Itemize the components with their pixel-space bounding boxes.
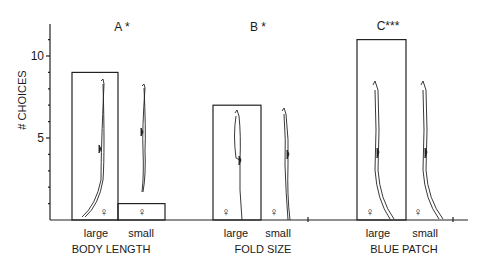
panel-c-header: C*** <box>377 19 400 33</box>
group-label-blue-patch: BLUE PATCH <box>370 243 437 255</box>
fish-icon <box>373 81 394 219</box>
choice-bar-chart: 10 5 # CHOICES A * ♀ ♀ large small BODY … <box>0 0 486 269</box>
y-axis-label: # CHOICES <box>16 70 28 129</box>
female-symbol: ♀ <box>414 205 423 219</box>
female-symbol: ♀ <box>270 205 279 219</box>
bar-fold-size-large <box>213 105 261 220</box>
panel-b-header: B * <box>250 20 266 34</box>
y-tick-5: 5 <box>37 131 44 145</box>
category-small: small <box>128 227 154 239</box>
fish-icon <box>282 108 290 220</box>
y-axis <box>46 24 50 220</box>
female-symbol: ♀ <box>222 205 231 219</box>
category-small: small <box>265 227 291 239</box>
group-label-body-length: BODY LENGTH <box>72 243 151 255</box>
female-symbol: ♀ <box>100 205 109 219</box>
panel-body-length: A * ♀ ♀ large small BODY LENGTH <box>72 20 165 255</box>
group-label-fold-size: FOLD SIZE <box>235 243 292 255</box>
fish-icon <box>235 110 243 220</box>
fish-icon <box>141 84 145 192</box>
female-symbol: ♀ <box>138 205 147 219</box>
female-symbol: ♀ <box>366 205 375 219</box>
category-large: large <box>366 227 390 239</box>
bar-body-length-large <box>72 72 118 220</box>
fish-icon <box>421 81 443 219</box>
panel-a-header: A * <box>114 20 130 34</box>
fish-icon <box>82 79 104 217</box>
y-tick-10: 10 <box>31 49 45 63</box>
category-large: large <box>224 227 248 239</box>
category-small: small <box>412 227 438 239</box>
category-large: large <box>84 227 108 239</box>
